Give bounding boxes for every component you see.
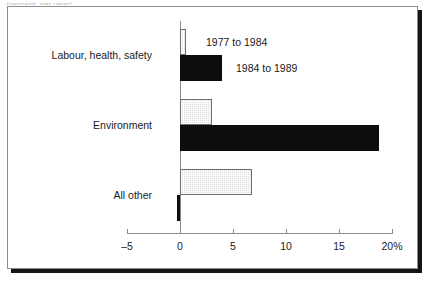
- category-label: Labour, health, safety: [52, 49, 152, 61]
- x-axis-tick-label: 0: [177, 240, 183, 252]
- bar-series-1984-1989: [177, 195, 180, 221]
- x-axis-tick: [127, 229, 128, 233]
- legend-label-1984-1989: 1984 to 1989: [236, 62, 297, 74]
- bar-series-1977-1984: [180, 99, 212, 125]
- x-axis-tick-label: 20%: [381, 240, 402, 252]
- category-label: All other: [113, 189, 152, 201]
- x-axis-tick-label: 5: [230, 240, 236, 252]
- x-axis-tick: [286, 229, 287, 233]
- bar-series-1977-1984: [180, 29, 186, 55]
- x-axis-tick: [233, 229, 234, 233]
- x-axis-tick: [180, 229, 181, 233]
- x-axis-tick-label: –5: [121, 240, 133, 252]
- x-axis-tick: [339, 229, 340, 233]
- legend-label-1977-1984: 1977 to 1984: [206, 36, 267, 48]
- bar-series-1977-1984: [180, 169, 252, 195]
- chart-plot-area: –505101520% Labour, health, safetyEnviro…: [8, 7, 417, 268]
- x-axis-line: [127, 233, 393, 234]
- bar-series-1984-1989: [180, 125, 379, 151]
- clipped-caption-sliver: (percent, per year): [6, 0, 266, 5]
- x-axis-tick-label: 10: [280, 240, 292, 252]
- chart-figure-frame: –505101520% Labour, health, safetyEnviro…: [7, 6, 418, 269]
- category-label: Environment: [93, 119, 152, 131]
- x-axis-tick-label: 15: [333, 240, 345, 252]
- bar-series-1984-1989: [180, 55, 222, 81]
- x-axis-tick: [392, 229, 393, 233]
